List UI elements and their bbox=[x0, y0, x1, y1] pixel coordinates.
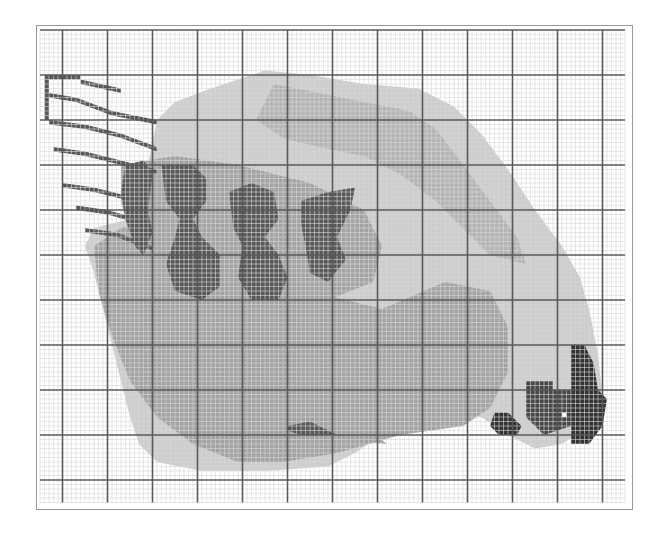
pattern-fill bbox=[45, 71, 608, 472]
tail-2 bbox=[81, 80, 122, 94]
stitch-pattern-chart bbox=[0, 0, 647, 541]
eye bbox=[562, 413, 567, 418]
